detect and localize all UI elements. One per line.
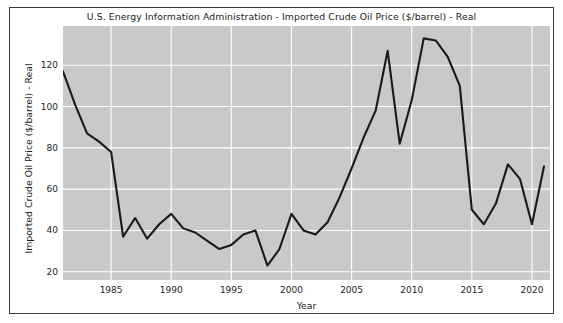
y-tick-label: 80 <box>47 143 58 153</box>
y-tick-label: 60 <box>47 184 58 194</box>
x-tick-label: 2005 <box>340 285 363 295</box>
x-tick-label: 2015 <box>460 285 483 295</box>
x-tick-label: 1995 <box>220 285 243 295</box>
x-axis-label: Year <box>63 300 550 311</box>
y-tick-label: 100 <box>41 102 58 112</box>
grid-lines-vertical <box>111 26 532 280</box>
plot-area <box>63 26 550 280</box>
grid-lines-horizontal <box>63 65 550 272</box>
y-tick-label: 120 <box>41 60 58 70</box>
x-tick-label: 2020 <box>521 285 544 295</box>
x-tick-label: 1990 <box>160 285 183 295</box>
page-title: U.S. Energy Information Administration -… <box>0 11 563 22</box>
chart-figure: U.S. Energy Information Administration -… <box>0 0 563 323</box>
y-axis-tick-labels: 20406080100120 <box>24 26 58 280</box>
chart-svg <box>63 26 550 280</box>
x-axis-tick-labels: 19851990199520002005201020152020 <box>63 285 550 299</box>
plot-region <box>63 26 550 280</box>
y-tick-label: 40 <box>47 225 58 235</box>
x-tick-label: 2010 <box>400 285 423 295</box>
x-tick-label: 1985 <box>100 285 123 295</box>
x-tick-label: 2000 <box>280 285 303 295</box>
y-tick-label: 20 <box>47 267 58 277</box>
